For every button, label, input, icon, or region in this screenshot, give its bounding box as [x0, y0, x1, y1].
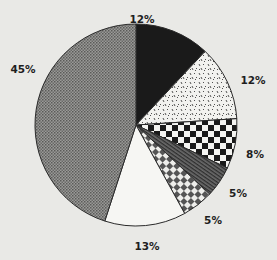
slice-label: 8% [246, 148, 264, 160]
slice-label: 5% [229, 187, 247, 199]
slice-label: 12% [129, 13, 155, 25]
slice-label: 12% [240, 74, 266, 86]
pie-chart: 12%12%8%5%5%13%45% [0, 0, 277, 260]
slice-label: 5% [204, 214, 222, 226]
pie-slices [35, 24, 237, 226]
slice-label: 45% [10, 63, 36, 75]
slice-label: 13% [134, 240, 160, 252]
